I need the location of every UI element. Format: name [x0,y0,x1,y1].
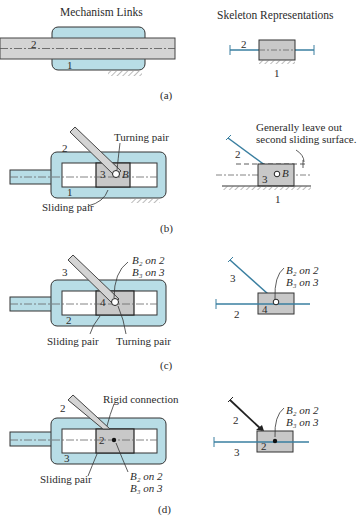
label-a-rod: 2 [31,38,37,50]
label-b-link: 2 [62,142,68,154]
label-d-link: 2 [60,402,66,414]
label-a-frame: 1 [67,59,73,71]
label-d-block: 2 [99,434,105,446]
label-d-skel-block: 2 [261,440,267,452]
panel-d-mechanism [10,395,166,476]
label-c-sliding-pair: Sliding pair [47,335,99,347]
label-d-skel-rod: 3 [234,446,240,458]
label-d-sliding-pair: Sliding pair [40,473,92,485]
label-d-skel-link: 2 [233,414,239,426]
diagram-canvas [0,0,363,517]
label-b-skel-point: B [282,167,289,179]
label-c-skel-b3: B₃ on 3 [286,276,319,288]
caption-a: (a) [160,89,172,101]
label-a-skel-rod: 2 [241,38,247,50]
label-b-sliding-pair: Sliding pair [42,201,94,213]
label-d-b3: B₃ on 3 [130,482,163,494]
caption-d: (d) [158,503,171,515]
label-b-point: B [122,168,129,180]
label-c-block: 4 [100,296,106,308]
label-d-rigid-connection: Rigid connection [103,393,178,405]
label-c-b2: B₂ on 2 [132,254,165,266]
header-skeleton-representations: Skeleton Representations [217,9,334,21]
panel-a-mechanism [0,27,175,76]
label-d-b2: B₂ on 2 [130,470,163,482]
label-c-frame: 2 [66,314,72,326]
label-c-b3: B₃ on 3 [132,266,165,278]
label-b-frame: 1 [67,186,73,198]
label-c-skel-b2: B₂ on 2 [286,264,319,276]
label-b-skel-link: 2 [235,148,241,160]
label-b-skel-ground: 1 [275,193,281,205]
label-c-turning-pair: Turning pair [116,335,171,347]
label-b-skel-block: 3 [262,173,268,185]
label-c-link: 3 [62,266,68,278]
label-b-turning-pair: Turning pair [114,131,169,143]
label-b-note-2: second sliding surface. [256,133,357,145]
caption-c: (c) [160,359,172,371]
label-d-skel-b2: B₂ on 2 [286,404,319,416]
label-d-frame: 3 [64,452,70,464]
header-mechanism-links: Mechanism Links [60,6,143,18]
label-d-skel-b3: B₃ on 3 [286,416,319,428]
label-c-skel-block: 4 [262,303,268,315]
label-c-skel-rod: 2 [234,308,240,320]
label-b-block: 3 [100,168,106,180]
label-c-skel-link: 3 [230,272,236,284]
caption-b: (b) [160,222,173,234]
label-a-skel-ground: 1 [274,67,280,79]
label-b-note-1: Generally leave out [256,121,342,133]
